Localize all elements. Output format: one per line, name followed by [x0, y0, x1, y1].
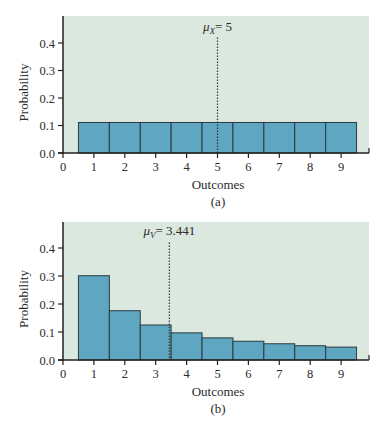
x-tick-label: 9: [338, 367, 344, 381]
bar-5: [202, 338, 233, 360]
x-tick-label: 7: [276, 367, 282, 381]
x-tick-label: 5: [214, 160, 220, 174]
bar-8: [295, 122, 326, 153]
y-tick-label: 0.4: [39, 242, 55, 256]
y-tick-label: 0.2: [39, 298, 55, 312]
bar-2: [109, 311, 140, 360]
x-tick-label: 5: [214, 367, 220, 381]
x-tick-label: 3: [153, 160, 159, 174]
figure: μX= 50.00.10.20.30.40123456789Probabilit…: [0, 0, 389, 433]
x-tick-label: 3: [153, 367, 159, 381]
panel-label: (a): [211, 194, 225, 209]
y-axis-title: Probability: [16, 63, 31, 121]
bar-3: [140, 122, 171, 153]
x-tick-label: 4: [183, 367, 190, 381]
x-tick-label: 1: [91, 367, 97, 381]
x-tick-label: 9: [338, 160, 344, 174]
x-tick-label: 2: [122, 367, 128, 381]
x-tick-label: 2: [122, 160, 128, 174]
bar-1: [78, 122, 109, 153]
y-tick-label: 0.4: [39, 37, 55, 51]
bar-1: [78, 276, 109, 360]
bar-4: [171, 122, 202, 153]
y-tick-label: 0.0: [39, 354, 55, 368]
y-tick-label: 0.2: [39, 92, 55, 106]
bar-6: [233, 122, 264, 153]
mean-label: μX= 5: [202, 19, 232, 36]
x-tick-label: 8: [307, 367, 313, 381]
x-axis-title: Outcomes: [192, 177, 245, 192]
x-tick-label: 7: [276, 160, 282, 174]
y-tick-label: 0.0: [39, 147, 55, 161]
bar-8: [295, 346, 326, 360]
x-axis-title: Outcomes: [192, 384, 245, 399]
bar-6: [233, 341, 264, 360]
y-tick-label: 0.3: [39, 64, 55, 78]
x-tick-label: 0: [60, 367, 66, 381]
bar-9: [326, 122, 357, 153]
x-tick-label: 0: [60, 160, 66, 174]
y-tick-label: 0.3: [39, 270, 55, 284]
bar-7: [264, 122, 295, 153]
panel-label: (b): [210, 401, 225, 416]
bar-3: [140, 325, 171, 360]
y-tick-label: 0.1: [39, 326, 55, 340]
y-tick-label: 0.1: [39, 119, 55, 133]
x-tick-label: 6: [245, 367, 251, 381]
bar-9: [326, 347, 357, 360]
x-tick-label: 6: [245, 160, 251, 174]
bar-4: [171, 333, 202, 360]
bar-2: [109, 122, 140, 153]
chart-panel-b: μV= 3.4410.00.10.20.30.40123456789Probab…: [16, 222, 369, 416]
x-tick-label: 1: [91, 160, 97, 174]
x-tick-label: 8: [307, 160, 313, 174]
chart-panel-a: μX= 50.00.10.20.30.40123456789Probabilit…: [16, 16, 369, 209]
x-tick-label: 4: [183, 160, 190, 174]
bar-7: [264, 344, 295, 360]
y-axis-title: Probability: [16, 270, 31, 328]
